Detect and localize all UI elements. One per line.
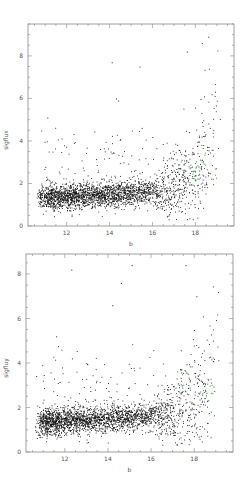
x-tick-label: 14	[106, 229, 114, 236]
x-tick-label: 12	[61, 455, 69, 462]
x-axis-label: b	[129, 240, 133, 247]
x-tick-label: 16	[149, 229, 157, 236]
y-tick-label: 8	[19, 52, 23, 59]
top-scatter-panel: 1214161802468bsigflux	[2, 24, 234, 247]
y-tick-label: 8	[17, 270, 21, 277]
y-tick-label: 6	[17, 315, 21, 322]
scatter-figure: 1214161802468bsigflux 1214161802468bsigf…	[0, 0, 248, 492]
y-tick-label: 6	[19, 94, 23, 101]
x-axis-label: b	[128, 466, 132, 473]
y-axis-label: sigfluy	[2, 358, 10, 378]
y-tick-label: 4	[17, 359, 21, 366]
y-tick-label: 0	[17, 448, 21, 455]
y-tick-label: 2	[19, 179, 23, 186]
y-axis-label: sigflux	[2, 130, 10, 150]
x-tick-label: 18	[192, 229, 200, 236]
y-tick-label: 0	[19, 222, 23, 229]
data-points	[37, 37, 221, 220]
x-tick-label: 12	[63, 229, 71, 236]
x-tick-label: 14	[104, 455, 112, 462]
y-tick-label: 2	[17, 404, 21, 411]
x-tick-label: 18	[190, 455, 198, 462]
bottom-scatter-panel: 1214161802468bsigfluy	[2, 254, 233, 473]
y-tick-label: 4	[19, 137, 23, 144]
x-tick-label: 16	[147, 455, 155, 462]
data-points	[35, 265, 219, 446]
